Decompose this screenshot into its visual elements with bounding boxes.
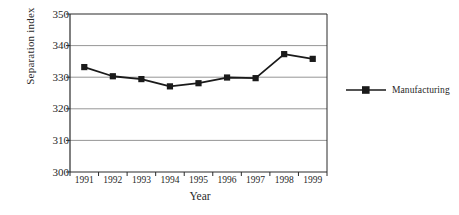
x-axis-tick-labels: 199119921993199419951996199719981999 bbox=[73, 175, 327, 191]
data-point-marker bbox=[281, 51, 287, 57]
data-point-marker bbox=[138, 76, 144, 82]
x-axis-title: Year bbox=[70, 190, 330, 202]
chart-legend: Manufacturing bbox=[345, 84, 450, 96]
data-series-manufacturing bbox=[81, 51, 316, 89]
axis-lines bbox=[70, 14, 327, 172]
data-point-marker bbox=[167, 83, 173, 89]
gridlines bbox=[70, 14, 327, 140]
data-point-marker bbox=[81, 64, 87, 70]
legend-marker-icon bbox=[345, 84, 387, 96]
data-point-marker bbox=[195, 80, 201, 86]
legend-label-manufacturing: Manufacturing bbox=[392, 85, 450, 95]
data-point-marker bbox=[310, 56, 316, 62]
chart-figure: Separation index 300310320330340350 1991… bbox=[0, 0, 459, 215]
data-point-marker bbox=[110, 73, 116, 79]
data-point-marker bbox=[224, 74, 230, 80]
x-tick-label: 1999 bbox=[296, 175, 330, 185]
data-point-marker bbox=[253, 75, 259, 81]
